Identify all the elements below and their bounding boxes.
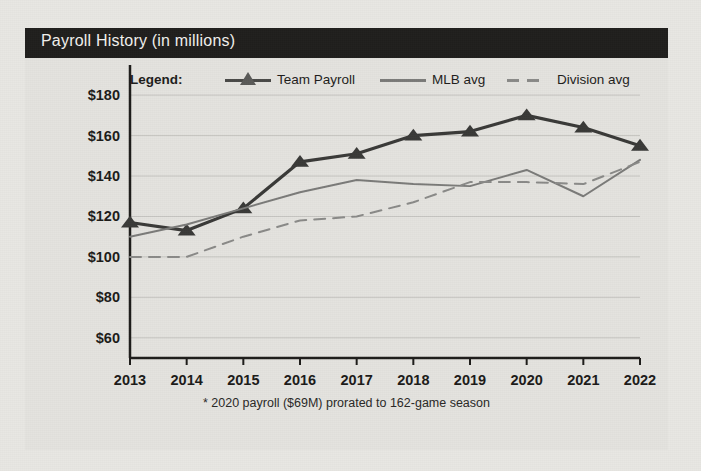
series-line-mlb-avg <box>130 160 640 237</box>
data-point-marker <box>121 216 139 228</box>
y-axis-tick-label: $140 <box>88 168 120 184</box>
payroll-line-chart: $180$160$140$120$100$80$60 2013201420152… <box>25 28 668 428</box>
chart-axes <box>130 65 640 358</box>
y-axis-tick-label: $60 <box>96 330 120 346</box>
x-axis-tick-label: 2021 <box>567 372 599 388</box>
x-axis-tick-label: 2020 <box>511 372 543 388</box>
x-axis-tick-label: 2013 <box>114 372 146 388</box>
chart-plot-area: $180$160$140$120$100$80$60 2013201420152… <box>25 28 668 450</box>
x-axis-tick-label: 2017 <box>341 372 373 388</box>
x-axis-tick-label: 2022 <box>624 372 656 388</box>
x-axis-tick-label: 2014 <box>171 372 203 388</box>
x-axis-tick-label: 2019 <box>454 372 486 388</box>
chart-footnote: * 2020 payroll ($69M) prorated to 162-ga… <box>25 396 668 410</box>
payroll-history-card: Payroll History (in millions) Legend: Te… <box>25 28 668 450</box>
x-axis-tick-label: 2015 <box>227 372 259 388</box>
chart-gridlines <box>130 95 640 338</box>
chart-y-axis-labels: $180$160$140$120$100$80$60 <box>88 87 120 346</box>
chart-series-group <box>121 109 649 257</box>
data-point-marker <box>518 109 536 121</box>
y-axis-tick-label: $80 <box>96 289 120 305</box>
chart-x-axis-labels: 2013201420152016201720182019202020212022 <box>114 372 656 388</box>
x-axis-tick-label: 2018 <box>397 372 429 388</box>
y-axis-tick-label: $180 <box>88 87 120 103</box>
x-axis-tick-label: 2016 <box>284 372 316 388</box>
y-axis-tick-label: $160 <box>88 128 120 144</box>
y-axis-tick-label: $100 <box>88 249 120 265</box>
series-line-team-payroll <box>130 115 640 230</box>
y-axis-tick-label: $120 <box>88 208 120 224</box>
